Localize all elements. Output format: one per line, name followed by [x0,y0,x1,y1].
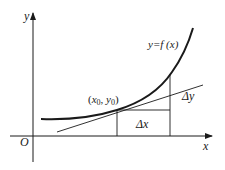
point-label: (x0, y0) [88,93,119,107]
diagram-svg: y x O y=f (x) (x0, y0) Δx Δy [0,0,225,170]
delta-y-label: Δy [181,89,195,103]
point-close-paren: ) [115,93,119,106]
derivative-diagram: y x O y=f (x) (x0, y0) Δx Δy [0,0,225,170]
x-axis-label: x [202,139,209,153]
origin-label: O [20,135,29,149]
delta-x-label: Δx [135,117,149,131]
y-axis-label: y [23,9,30,23]
function-label: y=f (x) [147,38,179,51]
